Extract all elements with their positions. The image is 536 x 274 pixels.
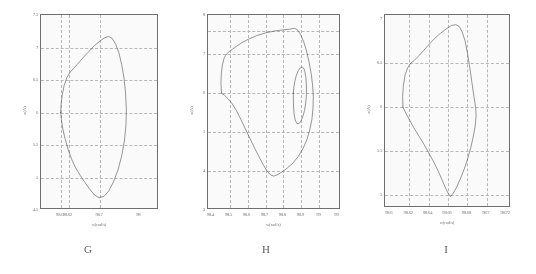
y-axis-tick-label: 7	[372, 16, 382, 21]
y-axis-tick-label: 7.5	[28, 12, 38, 17]
x-axis-tick-label: 98.62	[63, 212, 72, 217]
panel-letter-g: G	[84, 243, 92, 255]
y-axis-title: x(A)	[189, 100, 194, 120]
y-axis-tick-label: 6.5	[372, 60, 382, 65]
y-axis-tick-label: 4	[195, 168, 205, 173]
y-axis-tick-label: 6	[28, 109, 38, 114]
plot-axes	[40, 14, 158, 209]
y-axis-tick-label: 7	[28, 44, 38, 49]
y-axis-tick-label: 4.5	[28, 207, 38, 212]
y-axis-tick-label: 6	[372, 104, 382, 109]
y-axis-title: x(A)	[22, 100, 27, 120]
y-axis-tick-label: 8	[195, 12, 205, 17]
x-axis-title: w(rad/s)	[92, 222, 107, 227]
plot-axes	[384, 14, 510, 207]
y-axis-tick-label: 5	[195, 129, 205, 134]
plot-panel-h: 87654398.498.598.698.798.898.99999w(rad/…	[176, 0, 356, 274]
inner-loop	[293, 67, 306, 124]
y-axis-title: x(A)	[366, 99, 371, 119]
x-axis-tick-label: 98.5	[225, 212, 232, 217]
x-axis-title: w(rad/s)	[266, 222, 281, 227]
x-axis-tick-label: 99	[316, 212, 320, 217]
plot-panel-i: 76.565.5598.698.6298.6498.6698.6898.798.…	[356, 0, 536, 274]
x-axis-tick-label: 98.68	[462, 210, 471, 215]
x-axis-tick-label: 98.62	[404, 210, 413, 215]
outer-loop	[221, 28, 313, 176]
y-axis-tick-label: 5.5	[372, 147, 382, 152]
curve-group	[208, 15, 341, 210]
y-axis-tick-label: 5	[372, 191, 382, 196]
outer-loop	[61, 36, 127, 197]
x-axis-tick-label: 98.7	[95, 212, 102, 217]
x-axis-tick-label: 98	[136, 212, 140, 217]
plot-axes	[207, 14, 340, 209]
panel-letter-h: H	[262, 243, 270, 255]
x-axis-tick-label: 98.6	[385, 210, 392, 215]
x-axis-tick-label: 98.66	[442, 210, 451, 215]
x-axis-tick-label: 98.7	[482, 210, 489, 215]
x-axis-tick-label: 98.8	[279, 212, 286, 217]
y-axis-tick-label: 7	[195, 51, 205, 56]
y-axis-tick-label: 5.5	[28, 142, 38, 147]
outer-loop	[403, 25, 476, 197]
panel-letter-i: I	[444, 243, 448, 255]
x-axis-tick-label: 98.9	[297, 212, 304, 217]
x-axis-tick-label: 98.6	[243, 212, 250, 217]
y-axis-tick-label: 6.5	[28, 77, 38, 82]
x-axis-tick-label: 98.72	[500, 210, 509, 215]
plot-panel-g: 7.576.565.554.598.698.6298.798w(rad/s)x(…	[0, 0, 176, 274]
y-axis-tick-label: 3	[195, 207, 205, 212]
curve-group	[41, 15, 159, 210]
figure-container: 7.576.565.554.598.698.6298.798w(rad/s)x(…	[0, 0, 536, 274]
y-axis-tick-label: 6	[195, 90, 205, 95]
x-axis-tick-label: 99	[334, 212, 338, 217]
x-axis-title: w(rad/s)	[440, 220, 455, 225]
x-axis-tick-label: 98.7	[261, 212, 268, 217]
curve-group	[385, 15, 511, 208]
x-axis-tick-label: 98.4	[207, 212, 214, 217]
y-axis-tick-label: 5	[28, 174, 38, 179]
x-axis-tick-label: 98.64	[423, 210, 432, 215]
